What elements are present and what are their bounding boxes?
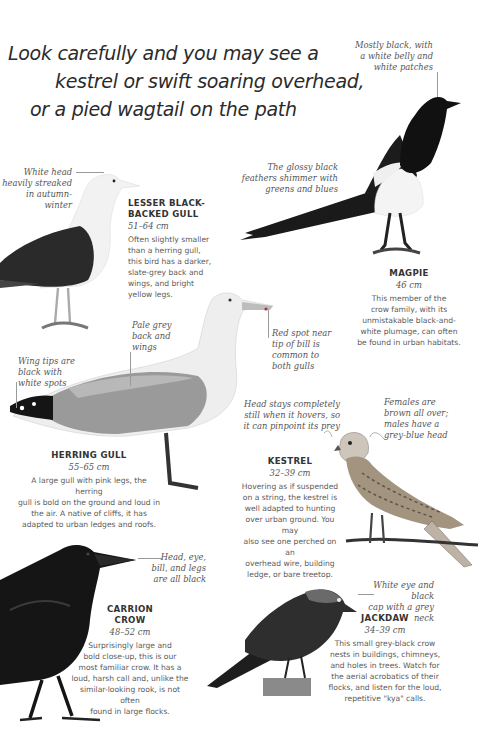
desc-line: also see one perched on an <box>240 536 340 558</box>
note-line: black with <box>18 367 88 378</box>
carrion-crow-name-2: CROW <box>70 615 190 626</box>
desc-line: slate-grey back and <box>128 267 238 278</box>
desc-line: similar-looking rook, is not often <box>70 684 190 706</box>
kestrel-note-head: Head stays completely still when it hove… <box>240 399 340 432</box>
desc-line: on a string, the kestrel is <box>240 492 340 503</box>
herring-gull-note-back: Pale grey back and wings <box>132 320 192 353</box>
kestrel-size: 32–39 cm <box>240 467 340 479</box>
magpie-note-body: Mostly black, with a white belly and whi… <box>313 40 433 73</box>
note-line: Head, eye, <box>150 552 206 563</box>
desc-line: this bird has a darker, <box>128 256 238 267</box>
note-line: Females are <box>384 397 464 408</box>
note-line: feathers shimmer with <box>230 173 338 184</box>
note-line: brown all over; <box>384 408 464 419</box>
desc-line: unmistakable black-and- <box>340 315 478 326</box>
carrion-crow-description: Surprisingly large and bold close-up, th… <box>70 640 190 717</box>
herring-gull-size: 55–65 cm <box>18 461 160 473</box>
kestrel-name: KESTREL <box>240 456 340 467</box>
magpie-description: This member of the crow family, with its… <box>340 293 478 348</box>
jackdaw-description: This small grey-black crow nests in buil… <box>322 638 448 704</box>
desc-line: A large gull with pink legs, the herring <box>18 475 160 497</box>
herring-gull-description: A large gull with pink legs, the herring… <box>18 475 160 530</box>
note-line: greens and blues <box>230 184 338 195</box>
desc-line: crow family, with its <box>340 304 478 315</box>
note-line: a white belly and <box>313 51 433 62</box>
desc-line: flocks, and listen for the loud, <box>322 682 448 693</box>
carrion-crow-caption: CARRION CROW 48–52 cm Surprisingly large… <box>70 604 190 717</box>
desc-line: and holes in trees. Watch for <box>322 660 448 671</box>
desc-line: gull is bold on the ground and loud in <box>18 497 160 508</box>
desc-line: well adapted to hunting <box>240 503 340 514</box>
desc-line: bold close-up, this is our <box>70 651 190 662</box>
carrion-crow-name-1: CARRION <box>70 604 190 615</box>
magpie-caption: MAGPIE 46 cm This member of the crow fam… <box>340 268 478 348</box>
desc-line: Hovering as if suspended <box>240 481 340 492</box>
desc-line: found in large flocks. <box>70 706 190 717</box>
leader-line <box>16 382 17 408</box>
note-line: White eye and black <box>350 580 434 602</box>
desc-line: repetitive "kya" calls. <box>322 693 448 704</box>
note-line: still when it hovers, so <box>240 410 340 421</box>
desc-line: be found in urban habitats. <box>340 337 478 348</box>
note-line: wings <box>132 342 192 353</box>
lbb-gull-name-2: BACKED GULL <box>128 209 238 220</box>
lbb-gull-name-1: LESSER BLACK- <box>128 198 238 209</box>
note-line: Wing tips are <box>18 356 88 367</box>
lbb-gull-size: 51–64 cm <box>128 220 238 232</box>
desc-line: Surprisingly large and <box>70 640 190 651</box>
note-line: both gulls <box>272 361 342 372</box>
herring-gull-note-bill: Red spot near tip of bill is common to b… <box>272 328 342 372</box>
note-line: Pale grey <box>132 320 192 331</box>
lbb-gull-caption: LESSER BLACK- BACKED GULL 51–64 cm Often… <box>128 198 238 300</box>
magpie-note-tail: The glossy black feathers shimmer with g… <box>230 162 338 195</box>
kestrel-caption: KESTREL 32–39 cm Hovering as if suspende… <box>240 456 340 580</box>
note-line: it can pinpoint its prey <box>240 421 340 432</box>
note-line: Red spot near <box>272 328 342 339</box>
note-line: Mostly black, with <box>313 40 433 51</box>
jackdaw-name: JACKDAW <box>322 613 448 624</box>
desc-line: Often slightly smaller <box>128 234 238 245</box>
note-line: The glossy black <box>230 162 338 173</box>
desc-line: the aerial acrobatics of their <box>322 671 448 682</box>
desc-line: than a herring gull, <box>128 245 238 256</box>
magpie-name: MAGPIE <box>340 268 478 279</box>
carrion-crow-size: 48–52 cm <box>70 626 190 638</box>
leader-line <box>268 310 269 338</box>
desc-line: overhead wire, building <box>240 558 340 569</box>
herring-gull-caption: HERRING GULL 55–65 cm A large gull with … <box>18 450 160 530</box>
desc-line: over urban ground. You may <box>240 514 340 536</box>
note-line: white spots <box>18 378 88 389</box>
desc-line: adapted to urban ledges and roofs. <box>18 519 160 530</box>
jackdaw-size: 34–39 cm <box>322 624 448 636</box>
magpie-size: 46 cm <box>340 279 478 291</box>
desc-line: the air. A native of cliffs, it has <box>18 508 160 519</box>
desc-line: most familiar crow. It has a <box>70 662 190 673</box>
desc-line: This small grey-black crow <box>322 638 448 649</box>
kestrel-illustration <box>332 425 482 575</box>
note-line: bill, and legs <box>150 563 206 574</box>
note-line: common to <box>272 350 342 361</box>
desc-line: This member of the <box>340 293 478 304</box>
herring-gull-name: HERRING GULL <box>18 450 160 461</box>
note-line: tip of bill is <box>272 339 342 350</box>
herring-gull-note-wingtips: Wing tips are black with white spots <box>18 356 88 389</box>
leader-line <box>130 352 131 386</box>
note-line: white patches <box>313 62 433 73</box>
desc-line: nests in buildings, chimneys, <box>322 649 448 660</box>
desc-line: white plumage, can often <box>340 326 478 337</box>
carrion-crow-note-head: Head, eye, bill, and legs are all black <box>150 552 206 585</box>
kestrel-description: Hovering as if suspended on a string, th… <box>240 481 340 580</box>
desc-line: loud, harsh call and, unlike the <box>70 673 190 684</box>
note-line: back and <box>132 331 192 342</box>
jackdaw-caption: JACKDAW 34–39 cm This small grey-black c… <box>322 613 448 704</box>
note-line: are all black <box>150 574 206 585</box>
desc-line: ledge, or bare treetop. <box>240 569 340 580</box>
note-line: Head stays completely <box>240 399 340 410</box>
headline-line-1: Look carefully and you may see a <box>8 40 319 66</box>
